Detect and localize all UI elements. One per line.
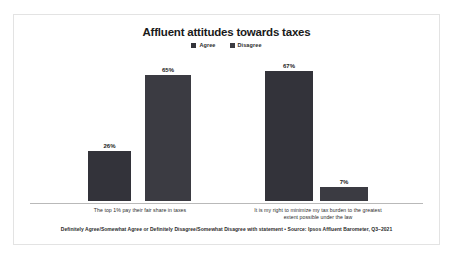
category-label-2: It is my right to minimize my tax burden…	[248, 207, 388, 221]
bar-agree-group-2[interactable]: 67%	[265, 71, 313, 201]
bar-value-label: 7%	[340, 179, 349, 185]
bar-disagree-group-2[interactable]: 7%	[320, 187, 368, 201]
plot-area: 26% 65% 67% 7% The top 1% pay their fair…	[14, 15, 439, 244]
bar-agree-group-1[interactable]: 26%	[88, 151, 131, 201]
bar-value-label: 65%	[162, 67, 174, 73]
bar-value-label: 26%	[103, 143, 115, 149]
category-label-1: The top 1% pay their fair share in taxes	[60, 207, 220, 214]
chart-frame: Affluent attitudes towards taxes Agree D…	[13, 14, 440, 245]
x-axis-line	[30, 203, 423, 204]
chart-footnote: Definitely Agree/Somewhat Agree or Defin…	[14, 226, 439, 232]
chart-page: Affluent attitudes towards taxes Agree D…	[0, 0, 452, 255]
bar-disagree-group-1[interactable]: 65%	[145, 75, 191, 201]
bar-value-label: 67%	[283, 63, 295, 69]
